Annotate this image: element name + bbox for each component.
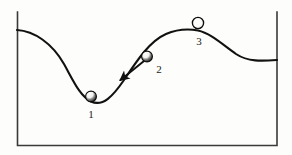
ball-label-3: 3 [196, 36, 202, 47]
ball-position-2 [142, 51, 153, 62]
figure-canvas: 1 2 3 [0, 0, 292, 155]
frame-border [18, 12, 278, 146]
ball-position-3 [192, 17, 203, 28]
terrain-curve [17, 29, 277, 103]
motion-direction-arrow [121, 61, 145, 80]
ball-label-1: 1 [88, 109, 94, 120]
ball-label-2: 2 [156, 64, 162, 75]
ball-position-1 [86, 91, 97, 102]
diagram-svg [0, 0, 292, 155]
